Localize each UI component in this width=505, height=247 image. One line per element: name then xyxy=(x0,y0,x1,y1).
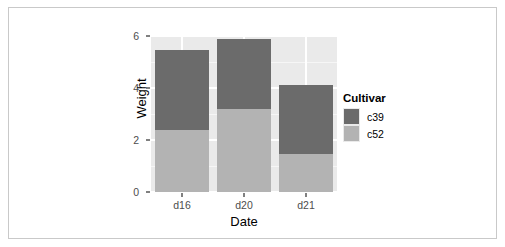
bar-segment-d16-c39 xyxy=(155,50,208,129)
bar-segment-d20-c39 xyxy=(217,39,270,109)
legend-swatch-c39 xyxy=(344,109,359,124)
plot-panel xyxy=(151,36,337,192)
legend-item-c52: c52 xyxy=(343,125,386,142)
legend-items: c39c52 xyxy=(343,108,386,142)
bar-segment-d21-c52 xyxy=(279,154,332,192)
legend-item-c39: c39 xyxy=(343,108,386,125)
y-tick-label: 0 xyxy=(119,187,139,197)
y-tick-mark xyxy=(146,139,150,140)
x-axis-title: Date xyxy=(151,214,337,229)
bar-d16 xyxy=(155,36,208,192)
image-frame: 0246 d16d20d21 Weight Date Cultivar c39c… xyxy=(8,7,497,239)
legend-swatch-c52 xyxy=(344,126,359,141)
x-tick-label-d21: d21 xyxy=(281,200,331,210)
legend-key xyxy=(343,108,360,125)
bar-segment-d21-c39 xyxy=(279,85,332,154)
x-tick-mark xyxy=(305,193,306,197)
legend: Cultivar c39c52 xyxy=(343,92,386,142)
legend-title: Cultivar xyxy=(343,92,386,104)
legend-label-c39: c39 xyxy=(367,111,384,123)
bar-segment-d16-c52 xyxy=(155,130,208,192)
legend-label-c52: c52 xyxy=(367,128,384,140)
chart-page: 0246 d16d20d21 Weight Date Cultivar c39c… xyxy=(0,0,505,247)
y-tick-label: 2 xyxy=(119,135,139,145)
x-tick-label-d16: d16 xyxy=(157,200,207,210)
bar-d21 xyxy=(279,36,332,192)
bar-segment-d20-c52 xyxy=(217,109,270,192)
y-tick-mark xyxy=(146,35,150,36)
y-axis-title: Weight xyxy=(134,78,149,118)
x-tick-mark xyxy=(243,193,244,197)
legend-key xyxy=(343,125,360,142)
y-tick-label: 6 xyxy=(119,31,139,41)
bar-d20 xyxy=(217,36,270,192)
x-tick-mark xyxy=(181,193,182,197)
x-tick-label-d20: d20 xyxy=(219,200,269,210)
y-tick-mark xyxy=(146,191,150,192)
